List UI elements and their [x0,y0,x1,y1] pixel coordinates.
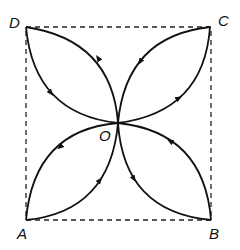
label-c: C [218,13,229,28]
label-d: D [9,15,20,30]
arrow-icon [98,58,102,64]
label-o: O [99,128,111,143]
loop-c-o [118,27,210,123]
label-a: A [17,226,27,241]
loop-b-o [118,123,211,220]
label-b: B [209,226,219,241]
diagram-canvas [0,0,240,250]
loop-d-o [26,27,118,123]
